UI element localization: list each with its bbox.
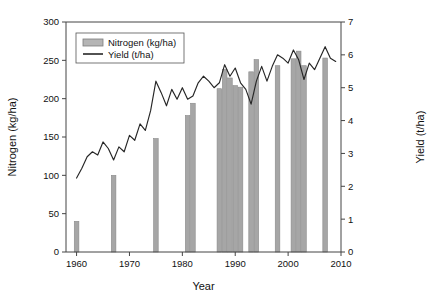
y2-axis-title: Yield (t/ha) <box>414 111 426 164</box>
y-tick-label-300: 300 <box>43 16 59 27</box>
y2-tick-label-4: 4 <box>348 115 353 126</box>
bar-1975 <box>154 139 159 252</box>
bar-1981 <box>185 116 190 252</box>
bar-2001 <box>291 59 296 252</box>
bar-1987 <box>217 89 222 252</box>
legend-label-nitrogen: Nitrogen (kg/ha) <box>108 37 176 48</box>
bar-2002 <box>296 51 301 252</box>
x-tick-label-1990: 1990 <box>225 258 246 269</box>
bar-1988 <box>222 70 227 252</box>
y-tick-label-150: 150 <box>43 131 59 142</box>
y-tick-label-50: 50 <box>48 208 59 219</box>
bar-2003 <box>302 66 307 252</box>
bar-1990 <box>233 86 238 252</box>
y2-tick-label-0: 0 <box>348 246 353 257</box>
y-tick-label-200: 200 <box>43 93 59 104</box>
nitrogen-yield-dual-axis-chart: 0501001502002503000123456719601970198019… <box>0 0 439 299</box>
x-tick-label-2000: 2000 <box>278 258 299 269</box>
chart-legend: Nitrogen (kg/ha)Yield (t/ha) <box>76 33 184 63</box>
y2-tick-label-1: 1 <box>348 214 353 225</box>
y2-tick-label-3: 3 <box>348 148 353 159</box>
bar-1998 <box>275 66 280 252</box>
legend-swatch-nitrogen-icon <box>83 39 103 46</box>
y-tick-label-100: 100 <box>43 170 59 181</box>
x-tick-label-2010: 2010 <box>330 258 351 269</box>
x-tick-label-1970: 1970 <box>119 258 140 269</box>
y2-tick-label-5: 5 <box>348 82 353 93</box>
bar-1960 <box>74 221 79 252</box>
y2-tick-label-6: 6 <box>348 49 353 60</box>
bar-2007 <box>323 58 328 252</box>
y-tick-label-0: 0 <box>54 246 59 257</box>
chart-figure: 0501001502002503000123456719601970198019… <box>0 0 439 299</box>
y2-tick-label-2: 2 <box>348 181 353 192</box>
x-axis-title: Year <box>192 280 215 292</box>
bar-1991 <box>238 87 243 252</box>
bar-1982 <box>191 103 196 252</box>
y-axis-title: Nitrogen (kg/ha) <box>6 98 18 177</box>
x-tick-label-1960: 1960 <box>66 258 87 269</box>
bar-1989 <box>228 78 233 252</box>
y2-tick-label-7: 7 <box>348 16 353 27</box>
legend-label-yield: Yield (t/ha) <box>108 49 154 60</box>
y-tick-label-250: 250 <box>43 55 59 66</box>
bar-1967 <box>111 175 116 252</box>
x-tick-label-1980: 1980 <box>172 258 193 269</box>
